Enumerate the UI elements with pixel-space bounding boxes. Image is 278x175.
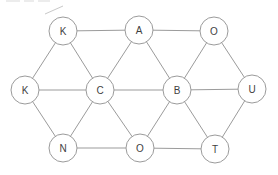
node-label-c: C bbox=[96, 85, 103, 96]
graph-node-u: U bbox=[238, 75, 266, 103]
graph-node-o1: O bbox=[200, 17, 228, 45]
node-label-k2: K bbox=[22, 85, 29, 96]
node-label-n: N bbox=[59, 143, 66, 154]
graph-node-n: N bbox=[49, 134, 77, 162]
node-label-t: T bbox=[212, 144, 218, 155]
node-label-u: U bbox=[248, 84, 255, 95]
graph-node-k2: K bbox=[11, 76, 39, 104]
graph-node-a: A bbox=[125, 16, 153, 44]
graph-node-c: C bbox=[86, 76, 114, 104]
node-label-a: A bbox=[136, 25, 143, 36]
graph-canvas: KAOKCBUNOT bbox=[0, 0, 278, 175]
graph-node-o2: O bbox=[126, 134, 154, 162]
graph-node-k1: K bbox=[49, 17, 77, 45]
graph-node-b: B bbox=[163, 76, 191, 104]
node-label-b: B bbox=[174, 85, 181, 96]
node-label-k1: K bbox=[60, 26, 67, 37]
graph-node-t: T bbox=[201, 135, 229, 163]
node-label-o2: O bbox=[136, 143, 144, 154]
scan-artifact-diagonal bbox=[45, 6, 63, 14]
graph-diagram: KAOKCBUNOT bbox=[0, 0, 278, 175]
node-label-o1: O bbox=[210, 26, 218, 37]
